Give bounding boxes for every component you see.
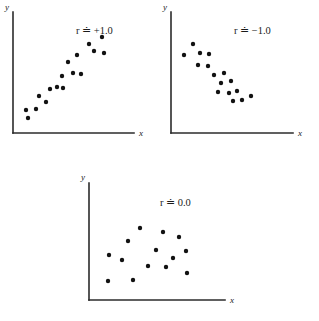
zero-correlation-plot: y x r ≐ 0.0 xyxy=(80,170,240,315)
data-point xyxy=(164,265,168,269)
data-point xyxy=(138,226,142,230)
data-point xyxy=(231,99,235,103)
axes xyxy=(171,12,293,133)
data-point xyxy=(219,81,223,85)
data-point xyxy=(55,85,59,89)
data-point xyxy=(71,71,75,75)
data-point xyxy=(79,72,83,76)
data-point xyxy=(171,256,175,260)
data-point xyxy=(102,51,106,55)
y-axis-label: y xyxy=(80,172,85,182)
data-points xyxy=(106,226,189,283)
data-point xyxy=(92,49,96,53)
correlation-annotation: r ≐ −1.0 xyxy=(234,25,271,36)
data-point xyxy=(48,87,52,91)
data-point xyxy=(24,108,28,112)
y-axis-label: y xyxy=(162,2,167,12)
data-point xyxy=(185,271,189,275)
x-axis-label: x xyxy=(229,295,234,305)
data-point xyxy=(182,53,186,57)
data-point xyxy=(249,94,253,98)
positive-correlation-plot: y x r ≐ +1.0 xyxy=(0,0,150,150)
data-point xyxy=(107,253,111,257)
panel-negative-correlation: y x r ≐ −1.0 xyxy=(160,0,310,150)
data-point xyxy=(131,278,135,282)
data-point xyxy=(184,249,188,253)
data-point xyxy=(34,107,38,111)
data-point xyxy=(240,98,244,102)
data-point xyxy=(212,73,216,77)
y-axis-label: y xyxy=(4,2,9,12)
data-point xyxy=(66,60,70,64)
data-points xyxy=(24,35,106,120)
data-point xyxy=(37,94,41,98)
data-point xyxy=(216,90,220,94)
correlation-figure: y x r ≐ +1.0 xyxy=(0,0,319,321)
data-point xyxy=(191,42,195,46)
negative-correlation-plot: y x r ≐ −1.0 xyxy=(160,0,310,150)
data-point xyxy=(61,86,65,90)
data-point xyxy=(198,51,202,55)
x-axis-label: x xyxy=(138,128,143,138)
data-point xyxy=(87,42,91,46)
data-points xyxy=(182,42,253,103)
panel-zero-correlation: y x r ≐ 0.0 xyxy=(80,170,240,315)
data-point xyxy=(26,116,30,120)
data-point xyxy=(126,239,130,243)
panel-positive-correlation: y x r ≐ +1.0 xyxy=(0,0,150,150)
x-axis-label: x xyxy=(297,128,302,138)
data-point xyxy=(222,71,226,75)
data-point xyxy=(229,79,233,83)
data-point xyxy=(60,74,64,78)
data-point xyxy=(207,52,211,56)
data-point xyxy=(146,264,150,268)
correlation-annotation: r ≐ +1.0 xyxy=(76,25,113,36)
data-point xyxy=(235,89,239,93)
data-point xyxy=(196,63,200,67)
data-point xyxy=(227,91,231,95)
data-point xyxy=(206,64,210,68)
data-point xyxy=(161,230,165,234)
data-point xyxy=(120,258,124,262)
data-point xyxy=(75,53,79,57)
data-point xyxy=(44,100,48,104)
data-point xyxy=(177,235,181,239)
data-point xyxy=(106,279,110,283)
correlation-annotation: r ≐ 0.0 xyxy=(160,197,191,208)
data-point xyxy=(100,35,104,39)
data-point xyxy=(154,248,158,252)
